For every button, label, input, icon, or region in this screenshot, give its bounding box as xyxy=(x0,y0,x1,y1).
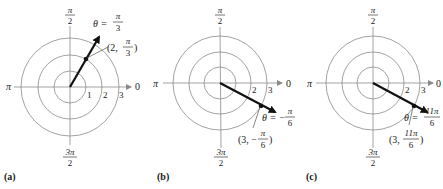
axis-label-3pi-over-2: 3π 2 xyxy=(366,147,380,168)
ring-label-1: 1 xyxy=(87,90,92,100)
panel-b: 0 π π 2 3π 2 2 3 θ = − π 6 (3, − π 6 ) xyxy=(153,5,295,183)
svg-text:3: 3 xyxy=(126,48,131,58)
ring-label-2: 2 xyxy=(405,85,410,95)
ring-label-2: 2 xyxy=(103,90,108,100)
svg-text:(3, −: (3, − xyxy=(238,134,257,146)
svg-text:11π: 11π xyxy=(426,106,439,116)
svg-text:π: π xyxy=(126,36,131,46)
svg-text:π: π xyxy=(68,5,73,15)
svg-text:11π: 11π xyxy=(405,128,418,138)
svg-text:6: 6 xyxy=(409,140,414,150)
svg-text:2: 2 xyxy=(218,16,223,26)
svg-text:6: 6 xyxy=(261,140,266,150)
svg-text:π: π xyxy=(288,106,293,116)
ring-label-3: 3 xyxy=(268,85,273,95)
polar-point-marker xyxy=(412,104,417,109)
svg-text:2: 2 xyxy=(371,158,376,168)
ring-label-3: 3 xyxy=(119,90,124,100)
point-leader-line xyxy=(253,107,260,128)
axis-label-3pi-over-2: 3π 2 xyxy=(63,147,77,168)
svg-text:): ) xyxy=(269,134,272,146)
ring-label-2: 2 xyxy=(252,85,257,95)
point-label-b: (3, − π 6 ) xyxy=(238,128,272,150)
polar-point-marker xyxy=(259,104,264,109)
svg-text:2: 2 xyxy=(219,158,224,168)
caption-a: (a) xyxy=(4,171,16,183)
svg-text:θ = −: θ = − xyxy=(262,112,285,123)
svg-text:θ =: θ = xyxy=(404,112,418,123)
svg-text:6: 6 xyxy=(430,118,435,128)
svg-text:θ =: θ = xyxy=(93,18,107,29)
theta-label-a: θ = π 3 xyxy=(93,11,123,33)
axis-label-3pi-over-2: 3π 2 xyxy=(214,147,228,168)
svg-text:(2,: (2, xyxy=(107,42,118,54)
svg-text:6: 6 xyxy=(288,118,293,128)
svg-text:π: π xyxy=(261,128,266,138)
caption-c: (c) xyxy=(306,171,317,183)
svg-text:π: π xyxy=(371,5,376,15)
svg-text:2: 2 xyxy=(68,158,73,168)
svg-text:3π: 3π xyxy=(64,147,75,157)
svg-text:3: 3 xyxy=(116,23,121,33)
axis-label-pi: π xyxy=(6,81,12,92)
axis-label-pi-over-2: π 2 xyxy=(215,5,225,26)
axis-label-0: 0 xyxy=(436,78,441,89)
panel-a: 0 π π 2 3π 2 1 2 3 θ = π 3 (2, π 3 ) xyxy=(4,5,140,183)
svg-text:3π: 3π xyxy=(215,147,226,157)
svg-text:(3,: (3, xyxy=(389,134,400,146)
axis-label-pi: π xyxy=(153,78,159,89)
theta-ray-arrow xyxy=(373,83,427,112)
panel-c: 0 π π 2 3π 2 2 3 θ = 11π 6 (3, 11π 6 ) xyxy=(306,5,441,183)
svg-text:2: 2 xyxy=(371,16,376,26)
svg-text:): ) xyxy=(134,42,137,54)
svg-text:): ) xyxy=(420,134,423,146)
svg-text:π: π xyxy=(218,5,223,15)
point-label-a: (2, π 3 ) xyxy=(107,36,137,58)
svg-text:3π: 3π xyxy=(367,147,378,157)
polar-coordinates-figure: 0 π π 2 3π 2 1 2 3 θ = π 3 (2, π 3 ) xyxy=(0,0,443,189)
axis-label-pi-over-2: π 2 xyxy=(368,5,378,26)
svg-text:2: 2 xyxy=(68,16,73,26)
theta-label-b: θ = − π 6 xyxy=(262,106,295,128)
axis-label-pi-over-2: π 2 xyxy=(65,5,75,26)
axis-label-pi: π xyxy=(307,78,313,89)
ring-label-3: 3 xyxy=(421,85,426,95)
point-label-c: (3, 11π 6 ) xyxy=(389,128,423,150)
axis-label-0: 0 xyxy=(286,78,291,89)
svg-text:π: π xyxy=(116,11,121,21)
axis-label-0: 0 xyxy=(135,81,140,92)
caption-b: (b) xyxy=(157,171,169,183)
